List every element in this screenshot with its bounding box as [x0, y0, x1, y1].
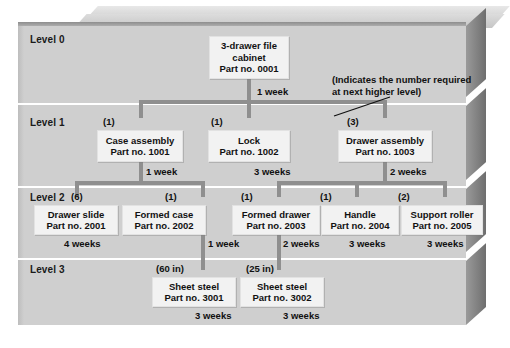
leadtime-2002: 1 week — [208, 238, 239, 249]
node-0001-part: Part no. 0001 — [219, 63, 278, 75]
qty-3001: (60 in) — [156, 263, 184, 274]
node-2003-part: Part no. 2003 — [246, 220, 305, 232]
level-label-3: Level 3 — [30, 264, 65, 275]
leadtime-1002: 3 weeks — [254, 166, 290, 177]
node-1001-part: Part no. 1001 — [110, 146, 169, 158]
node-1002-part: Part no. 1002 — [219, 146, 278, 158]
node-3002-part: Part no. 3002 — [252, 292, 311, 304]
divider-level-1-2 — [18, 186, 466, 188]
node-0001-name-line2: cabinet — [232, 52, 265, 64]
connector-drop-3001 — [201, 232, 205, 270]
annotation-callout: (Indicates the number required at next h… — [332, 74, 471, 98]
node-2002-name-line1: Formed case — [135, 209, 194, 221]
node-0001-name-line1: 3-drawer file — [221, 40, 277, 52]
leadtime-2004: 3 weeks — [349, 238, 385, 249]
node-2002-part: Part no. 2002 — [134, 220, 193, 232]
annotation-leader-line — [330, 96, 392, 118]
node-3001-name-line1: Sheet steel — [169, 281, 219, 293]
node-2005[interactable]: Support roller Part no. 2005 — [401, 205, 483, 235]
leadtime-3002: 3 weeks — [283, 310, 319, 321]
node-2004[interactable]: Handle Part no. 2004 — [321, 205, 399, 235]
node-2004-part: Part no. 2004 — [330, 220, 389, 232]
node-2005-part: Part no. 2005 — [412, 220, 471, 232]
node-2003-name-line1: Formed drawer — [242, 209, 311, 221]
node-1003-name-line1: Drawer assembly — [346, 135, 424, 147]
qty-2004: (1) — [320, 191, 332, 202]
qty-1002: (1) — [211, 116, 223, 127]
annotation-line-1: (Indicates the number required — [332, 74, 471, 86]
connector-drop-1002 — [247, 100, 251, 118]
node-2005-name-line1: Support roller — [411, 209, 474, 221]
leadtime-2005: 3 weeks — [427, 238, 463, 249]
node-1003[interactable]: Drawer assembly Part no. 1003 — [338, 130, 432, 162]
level-label-1: Level 1 — [30, 117, 65, 128]
connector-drop-case-assembly — [139, 160, 143, 183]
level-label-2: Level 2 — [30, 192, 65, 203]
connector-drop-1001 — [139, 100, 143, 118]
node-1001[interactable]: Case assembly Part no. 1001 — [97, 130, 183, 162]
connector-drop-2005 — [443, 181, 447, 197]
connector-drop-2004 — [355, 181, 359, 197]
node-3001[interactable]: Sheet steel Part no. 3001 — [152, 277, 236, 307]
qty-2002: (1) — [165, 191, 177, 202]
node-3002[interactable]: Sheet steel Part no. 3002 — [240, 277, 324, 307]
connector-drop-2003 — [277, 181, 281, 197]
node-1003-part: Part no. 1003 — [355, 146, 414, 158]
connector-drop-0001 — [247, 77, 251, 102]
connector-bus-case-assembly — [75, 181, 205, 185]
leadtime-2003: 2 weeks — [283, 238, 319, 249]
node-2002[interactable]: Formed case Part no. 2002 — [122, 205, 206, 235]
bom-diagram-canvas: Level 0 Level 1 Level 2 Level 3 (Indicat… — [0, 0, 510, 348]
node-2004-name-line1: Handle — [344, 209, 376, 221]
connector-drop-2002 — [201, 181, 205, 197]
node-3001-part: Part no. 3001 — [164, 292, 223, 304]
qty-1003: (3) — [347, 116, 359, 127]
node-2001-part: Part no. 2001 — [46, 220, 105, 232]
level-label-0: Level 0 — [30, 34, 65, 45]
leadtime-0001: 1 week — [257, 86, 288, 97]
qty-1001: (1) — [103, 116, 115, 127]
node-1001-name-line1: Case assembly — [106, 135, 175, 147]
qty-3002: (25 in) — [246, 263, 274, 274]
connector-bus-drawer-assembly — [277, 181, 447, 185]
node-2001-name-line1: Drawer slide — [48, 209, 105, 221]
node-2003[interactable]: Formed drawer Part no. 2003 — [232, 205, 320, 235]
node-1002-name-line1: Lock — [238, 135, 260, 147]
node-2001[interactable]: Drawer slide Part no. 2001 — [34, 205, 118, 235]
qty-2005: (2) — [398, 191, 410, 202]
qty-2001: (6) — [71, 191, 83, 202]
leadtime-1003: 2 weeks — [390, 166, 426, 177]
slab-left-bevel — [18, 26, 24, 325]
leadtime-2001: 4 weeks — [64, 238, 100, 249]
connector-drop-3002 — [277, 232, 281, 270]
divider-level-2-3 — [18, 258, 466, 260]
qty-2003: (1) — [241, 191, 253, 202]
leadtime-1001: 1 week — [146, 166, 177, 177]
node-1002[interactable]: Lock Part no. 1002 — [208, 130, 290, 162]
leadtime-3001: 3 weeks — [195, 310, 231, 321]
node-3002-name-line1: Sheet steel — [257, 281, 307, 293]
connector-drop-drawer-assembly — [383, 160, 387, 183]
node-0001[interactable]: 3-drawer file cabinet Part no. 0001 — [209, 36, 289, 79]
